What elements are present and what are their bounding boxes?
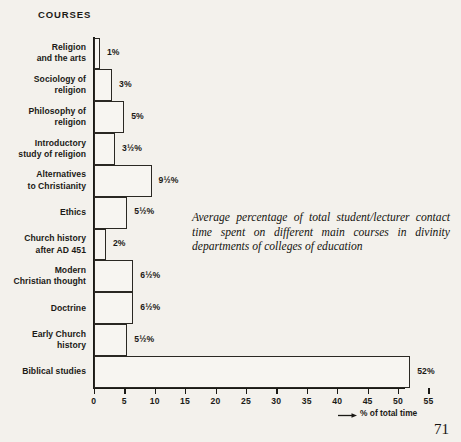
category-label: Biblical studies bbox=[0, 366, 86, 377]
category-label: Doctrine bbox=[0, 303, 86, 314]
bar bbox=[94, 356, 410, 388]
bar-value-label: 9½% bbox=[159, 175, 179, 185]
category-label: Philosophy of religion bbox=[0, 106, 86, 129]
x-axis-tick bbox=[337, 388, 338, 394]
category-label: Religion and the arts bbox=[0, 42, 86, 65]
bar bbox=[94, 229, 106, 261]
bar-value-label: 5½% bbox=[134, 206, 154, 216]
x-axis-tick-label: 45 bbox=[363, 396, 373, 406]
bar bbox=[94, 197, 127, 229]
x-axis-tick-label: 30 bbox=[271, 396, 281, 406]
figure-caption: Average percentage of total student/lect… bbox=[192, 211, 450, 255]
x-axis-tick bbox=[246, 388, 247, 394]
x-axis-tick bbox=[94, 388, 95, 394]
x-axis-tick bbox=[428, 388, 429, 394]
bar-value-label: 3% bbox=[119, 79, 132, 89]
category-label: Church history after AD 451 bbox=[0, 233, 86, 256]
x-axis-tick-label: 55 bbox=[423, 396, 433, 406]
x-axis-tick-label: 0 bbox=[91, 396, 96, 406]
category-label: Alternatives to Christianity bbox=[0, 169, 86, 192]
bar-value-label: 1% bbox=[107, 47, 120, 57]
bar-value-label: 3½% bbox=[122, 143, 142, 153]
bar-value-label: 6½% bbox=[140, 302, 160, 312]
category-label: Sociology of religion bbox=[0, 74, 86, 97]
x-axis-tick bbox=[185, 388, 186, 394]
bar bbox=[94, 292, 134, 324]
x-axis-tick-label: 20 bbox=[211, 396, 221, 406]
bar-value-label: 2% bbox=[113, 238, 126, 248]
category-label: Ethics bbox=[0, 207, 86, 218]
page-number: 71 bbox=[434, 421, 449, 438]
bar bbox=[94, 324, 127, 356]
x-axis-tick-label: 40 bbox=[332, 396, 342, 406]
chart-page: COURSES 1%Religion and the arts3%Sociolo… bbox=[0, 0, 461, 442]
bar bbox=[94, 69, 112, 101]
bar bbox=[94, 260, 134, 292]
bar-value-label: 5½% bbox=[134, 334, 154, 344]
x-axis-tick-label: 10 bbox=[150, 396, 160, 406]
category-label: Modern Christian thought bbox=[0, 265, 86, 288]
x-axis-tick bbox=[276, 388, 277, 394]
x-axis-caption: % of total time bbox=[360, 408, 417, 418]
x-axis-tick bbox=[124, 388, 125, 394]
category-label: Introductory study of religion bbox=[0, 138, 86, 161]
right-arrow-icon bbox=[338, 412, 357, 419]
bar bbox=[94, 165, 152, 197]
x-axis-tick bbox=[368, 388, 369, 394]
x-axis-tick bbox=[398, 388, 399, 394]
bar bbox=[94, 38, 100, 70]
category-label: Early Church history bbox=[0, 329, 86, 352]
x-axis-tick-label: 25 bbox=[241, 396, 251, 406]
bar-value-label: 52% bbox=[417, 366, 435, 376]
x-axis-tick-label: 35 bbox=[302, 396, 312, 406]
bar-value-label: 6½% bbox=[140, 270, 160, 280]
x-axis-tick-label: 50 bbox=[393, 396, 403, 406]
bar bbox=[94, 101, 124, 133]
bar bbox=[94, 133, 115, 165]
x-axis-tick bbox=[155, 388, 156, 394]
x-axis-tick-label: 5 bbox=[122, 396, 127, 406]
x-axis-tick bbox=[307, 388, 308, 394]
x-axis-tick-label: 15 bbox=[180, 396, 190, 406]
bar-value-label: 5% bbox=[131, 111, 144, 121]
x-axis-tick bbox=[216, 388, 217, 394]
